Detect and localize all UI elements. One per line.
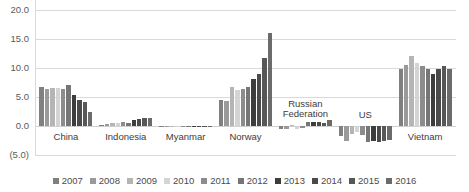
legend-item-2013[interactable]: 2013: [275, 176, 305, 186]
legend-swatch-icon: [275, 178, 281, 184]
bar-russian-federation-2014: [317, 122, 321, 126]
bar-us-2012: [366, 126, 370, 142]
bar-group-norway: Norway: [216, 0, 276, 168]
bars: [36, 0, 96, 168]
category-label-vietnam: Vietnam: [395, 132, 455, 142]
bar-myanmar-2010: [175, 126, 179, 127]
bar-norway-2007: [219, 100, 223, 126]
bar-us-2009: [350, 126, 354, 134]
bar-norway-2009: [230, 87, 234, 126]
bar-indonesia-2015: [142, 118, 146, 126]
bar-myanmar-2015: [202, 126, 206, 127]
legend-item-2011[interactable]: 2011: [201, 176, 230, 186]
bar-indonesia-2008: [105, 124, 109, 126]
bars: [216, 0, 276, 168]
bar-myanmar-2016: [208, 126, 212, 127]
legend-item-2007[interactable]: 2007: [53, 176, 83, 186]
legend-item-2009[interactable]: 2009: [127, 176, 157, 186]
category-label-norway: Norway: [216, 132, 276, 142]
bar-indonesia-2011: [121, 122, 125, 126]
legend-item-2016[interactable]: 2016: [386, 176, 416, 186]
y-axis: 20.015.010.05.00.0(5.0): [0, 0, 33, 168]
bar-myanmar-2014: [197, 126, 201, 127]
category-label-russian-federation: Russian Federation: [275, 99, 335, 120]
bar-us-2014: [377, 126, 381, 142]
bars: [96, 0, 156, 168]
bar-indonesia-2014: [137, 119, 141, 126]
bar-groups: ChinaIndonesiaMyanmarNorwayRussian Feder…: [36, 0, 455, 168]
legend-swatch-icon: [53, 178, 59, 184]
bar-china-2016: [88, 112, 92, 126]
category-label-indonesia: Indonesia: [96, 132, 156, 142]
bar-russian-federation-2007: [279, 126, 283, 129]
bar-indonesia-2009: [110, 123, 114, 126]
category-label-myanmar: Myanmar: [156, 132, 216, 142]
bar-vietnam-2009: [409, 56, 413, 126]
legend-label: 2012: [247, 176, 268, 186]
grouped-bar-chart: 20.015.010.05.00.0(5.0) ChinaIndonesiaMy…: [0, 0, 469, 192]
bar-us-2010: [355, 126, 359, 132]
bar-myanmar-2009: [170, 126, 174, 127]
legend-item-2010[interactable]: 2010: [164, 176, 194, 186]
bar-indonesia-2013: [132, 120, 136, 126]
bar-us-2011: [360, 126, 364, 135]
bar-russian-federation-2013: [311, 122, 315, 126]
bar-indonesia-2007: [99, 125, 103, 126]
legend-item-2012[interactable]: 2012: [238, 176, 268, 186]
bar-china-2007: [39, 87, 43, 126]
bar-slot: [267, 0, 272, 168]
legend-label: 2011: [210, 176, 230, 186]
bar-group-vietnam: Vietnam: [395, 0, 455, 168]
legend-label: 2016: [395, 176, 416, 186]
bar-norway-2008: [224, 101, 228, 126]
bar-china-2011: [61, 89, 65, 126]
category-label-us: US: [335, 110, 395, 120]
bars: [335, 0, 395, 168]
bar-russian-federation-2012: [306, 122, 310, 126]
bar-norway-2010: [235, 90, 239, 126]
bar-slot: [88, 0, 93, 168]
bar-indonesia-2010: [116, 123, 120, 126]
bar-myanmar-2013: [192, 126, 196, 127]
plot-area: 20.015.010.05.00.0(5.0) ChinaIndonesiaMy…: [0, 0, 469, 168]
bar-china-2014: [77, 100, 81, 126]
legend-swatch-icon: [127, 178, 133, 184]
legend-swatch-icon: [201, 178, 207, 184]
y-axis-tick-label: 10.0: [11, 63, 30, 73]
bar-indonesia-2012: [126, 123, 130, 126]
bar-norway-2013: [251, 79, 255, 126]
legend-label: 2007: [62, 176, 83, 186]
bar-norway-2014: [257, 74, 261, 126]
legend-swatch-icon: [312, 178, 318, 184]
bar-group-myanmar: Myanmar: [156, 0, 216, 168]
y-axis-tick-label: 0.0: [16, 121, 29, 131]
legend-item-2015[interactable]: 2015: [349, 176, 379, 186]
bar-vietnam-2012: [426, 69, 430, 126]
bar-china-2009: [50, 88, 54, 126]
legend-item-2008[interactable]: 2008: [90, 176, 120, 186]
y-axis-tick-label: 15.0: [11, 34, 30, 44]
y-axis-tick-label: 20.0: [11, 5, 30, 15]
bar-russian-federation-2011: [300, 126, 304, 128]
bar-myanmar-2007: [159, 126, 163, 127]
bar-russian-federation-2008: [284, 126, 288, 129]
legend-label: 2010: [173, 176, 194, 186]
bar-russian-federation-2010: [295, 126, 299, 129]
bar-vietnam-2011: [420, 66, 424, 126]
bar-norway-2016: [268, 33, 272, 126]
bar-group-russian-federation: Russian Federation: [275, 0, 335, 168]
bars: [156, 0, 216, 168]
bar-group-indonesia: Indonesia: [96, 0, 156, 168]
bar-vietnam-2008: [404, 65, 408, 126]
y-axis-tick-label: (5.0): [9, 150, 29, 160]
legend-label: 2014: [321, 176, 342, 186]
bar-norway-2012: [246, 87, 250, 126]
legend-item-2014[interactable]: 2014: [312, 176, 342, 186]
legend-swatch-icon: [238, 178, 244, 184]
bar-vietnam-2013: [431, 74, 435, 126]
bar-us-2008: [344, 126, 348, 141]
bar-slot: [447, 0, 452, 168]
bar-slot: [207, 0, 212, 168]
bar-vietnam-2010: [415, 63, 419, 126]
chart-legend: 2007200820092010201120122013201420152016: [0, 171, 469, 191]
